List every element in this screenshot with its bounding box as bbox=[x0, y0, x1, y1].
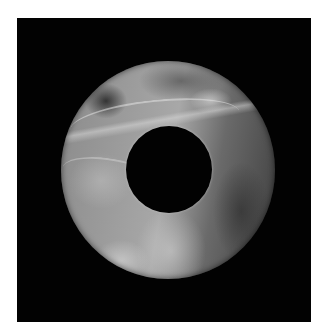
disc-center-hole bbox=[126, 126, 212, 213]
